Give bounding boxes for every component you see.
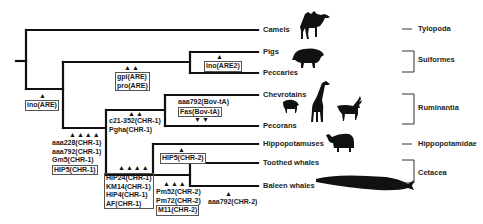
marker-ino-are: ino(ARE) [25,100,59,111]
group-tylopoda: Tylopoda [418,24,451,33]
chevrotain-icon [283,100,299,113]
insertion-arrows-icon: ▲▲▲▲ [69,131,101,138]
insertion-arrow-icon: ▲ [225,190,233,197]
insertion-arrow-icon: ▲ [216,53,224,60]
deletion-arrows-icon: ▼▼ [194,116,210,123]
marker-hip24-group: HIP24(CHR-1) KM14(CHR-1) HIP4(CHR-1) AF(… [104,173,154,209]
taxon-baleen-whales: Baleen whales [263,181,315,190]
taxon-pigs: Pigs [263,47,279,56]
hippo-icon [326,134,354,152]
insertion-arrow-icon: ▲ [178,146,186,153]
camel-icon [300,11,330,39]
marker-bov-ta: aaa792(Bov-tA) Fas(Bov-tA) [178,98,229,117]
taxon-pecorans: Pecorans [263,121,297,130]
marker-c21-pgha: c21-352(CHR-1) Pgha(CHR-1) [109,117,161,134]
marker-ino-are2: ino(ARE2) [204,61,242,72]
insertion-arrow-icon: ▲ [39,92,47,99]
giraffe-icon [311,81,330,122]
taxon-hippopotamuses: Hippopotamuses [263,139,324,148]
group-hippopotamidae: Hippopotamidae [418,139,477,148]
antelope-icon [337,96,362,121]
group-cetacea: Cetacea [418,168,447,177]
insertion-arrows-icon: ▲▲▲ [163,180,187,187]
taxon-toothed-whales: Toothed whales [263,158,319,167]
phylogenetic-tree [0,0,483,224]
marker-aaa228-group: aaa228(CHR-1) aaa792(CHR-1) Gm5(CHR-1) H… [52,139,101,175]
insertion-arrows-icon: ▲▲ [128,110,144,117]
marker-hip5-chr2: HIP5(CHR-2) [160,153,206,164]
marker-gpi-pro: gpi(ARE) pro(ARE) [115,72,150,91]
marker-aaa792-chr2: aaa792(CHR-2) [208,198,257,207]
taxon-camels: Camels [263,25,290,34]
group-suiformes: Suiformes [418,55,455,64]
taxon-peccaries: Peccaries [263,68,298,77]
group-ruminantia: Ruminantia [418,103,459,112]
boar-icon [292,48,324,68]
insertion-arrows-icon: ▲▲ [124,64,140,71]
whale-icon [316,175,414,190]
insertion-arrows-icon: ▲▲▲▲ [118,164,150,171]
taxon-chevrotains: Chevrotains [263,90,306,99]
marker-pm52-group: Pm52(CHR-2) Pm72(CHR-2) M11(CHR-2) [156,188,201,216]
